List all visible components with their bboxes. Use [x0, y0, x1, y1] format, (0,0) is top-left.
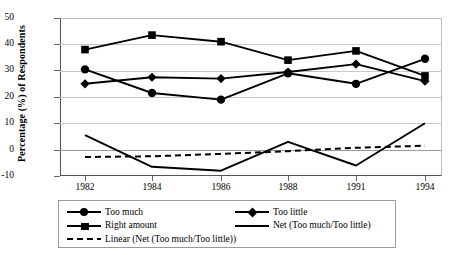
series-too-little	[80, 59, 429, 88]
y-tick-label: 0	[0, 145, 14, 155]
x-tick-label: 1988	[266, 182, 310, 192]
data-point	[352, 80, 360, 88]
x-tick-label: 1982	[63, 182, 107, 192]
data-point	[421, 72, 429, 80]
legend-item-too-much: Too much	[67, 205, 236, 219]
legend-marker-circle-icon	[67, 206, 101, 217]
x-tick-label: 1991	[334, 182, 378, 192]
y-axis-title: Percentage (%) of Respondents	[16, 9, 27, 179]
legend-marker-square-icon	[67, 220, 101, 231]
y-tick-mark	[54, 176, 60, 177]
legend-label: Too little	[273, 207, 307, 217]
y-tick-label: 30	[0, 65, 14, 75]
y-tick-label: 10	[0, 118, 14, 128]
legend-label: Net (Too much/Too little)	[273, 220, 371, 230]
data-point	[81, 65, 89, 73]
data-point	[81, 46, 89, 54]
data-point	[148, 89, 156, 97]
series-right-amount	[81, 31, 429, 79]
legend-label: Too much	[105, 207, 143, 217]
x-tick-mark	[356, 176, 357, 181]
legend-label: Linear (Net (Too much/Too little))	[105, 234, 236, 244]
data-point	[352, 47, 360, 55]
data-point	[351, 59, 360, 68]
data-point	[216, 74, 225, 83]
x-tick-mark	[85, 176, 86, 181]
data-point	[80, 79, 89, 88]
data-point	[217, 95, 225, 103]
x-tick-mark	[288, 176, 289, 181]
data-point	[284, 56, 292, 64]
x-tick-label: 1994	[403, 182, 447, 192]
legend-item-right-amount: Right amount	[67, 219, 236, 233]
chart-legend: Too much Right amount Linear (Net (Too m…	[58, 200, 396, 248]
x-tick-label: 1984	[130, 182, 174, 192]
x-tick-mark	[152, 176, 153, 181]
legend-column-2: Too little Net (Too much/Too little)	[235, 205, 371, 232]
y-tick-label: 50	[0, 13, 14, 23]
data-point	[217, 38, 225, 46]
legend-marker-diamond-icon	[235, 206, 269, 217]
data-point	[421, 55, 429, 63]
x-tick-label: 1986	[199, 182, 243, 192]
x-tick-mark	[425, 176, 426, 181]
legend-column-1: Too much Right amount Linear (Net (Too m…	[67, 205, 236, 246]
legend-item-too-little: Too little	[235, 205, 371, 219]
y-tick-label: 40	[0, 39, 14, 49]
data-point	[147, 73, 156, 82]
x-tick-mark	[221, 176, 222, 181]
legend-label: Right amount	[105, 220, 157, 230]
legend-marker-line-icon	[235, 220, 269, 231]
y-tick-label: 20	[0, 92, 14, 102]
legend-item-net: Net (Too much/Too little)	[235, 219, 371, 233]
chart-figure: Percentage (%) of Respondents 50 40 30 2…	[0, 0, 468, 255]
plot-area	[60, 18, 442, 176]
data-series-layer	[60, 18, 442, 176]
series-net-too-much-too-little	[85, 123, 425, 170]
legend-marker-dashed-icon	[67, 233, 101, 244]
data-point	[148, 31, 156, 39]
y-tick-label: -10	[0, 171, 14, 181]
legend-item-linear-trend: Linear (Net (Too much/Too little))	[67, 232, 236, 246]
